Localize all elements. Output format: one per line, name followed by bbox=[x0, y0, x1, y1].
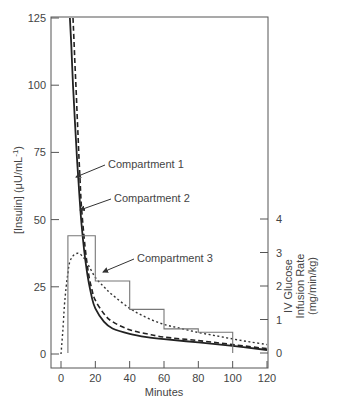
y-tick-label: 125 bbox=[28, 12, 46, 24]
y-axis-ticks: 0255075100125 bbox=[28, 12, 59, 360]
y-axis-label: [Insulin] (μU/mL-1) bbox=[11, 146, 24, 234]
x-tick-label: 80 bbox=[192, 372, 204, 384]
x-tick-label: 0 bbox=[58, 372, 64, 384]
annotation-label: Compartment 2 bbox=[114, 192, 190, 204]
y-tick-label: 100 bbox=[28, 79, 46, 91]
svg-text:Infusion Rate: Infusion Rate bbox=[294, 254, 306, 319]
annotation-label: Compartment 1 bbox=[108, 158, 184, 170]
x-axis-label: Minutes bbox=[145, 386, 184, 398]
y-tick-label: 50 bbox=[34, 214, 46, 226]
y-tick-label: 0 bbox=[40, 348, 46, 360]
y2-tick-label: 4 bbox=[276, 213, 282, 225]
series-compartment-2 bbox=[73, 18, 267, 349]
x-tick-label: 100 bbox=[223, 372, 241, 384]
annotation-arrow bbox=[103, 259, 134, 272]
y-tick-label: 25 bbox=[34, 281, 46, 293]
y2-axis-ticks: 01234 bbox=[260, 213, 282, 359]
y2-tick-label: 1 bbox=[276, 314, 282, 326]
series-compartment-1 bbox=[70, 18, 267, 350]
x-tick-label: 20 bbox=[89, 372, 101, 384]
y-tick-label: 75 bbox=[34, 146, 46, 158]
y2-tick-label: 3 bbox=[276, 247, 282, 259]
x-tick-label: 60 bbox=[158, 372, 170, 384]
insulin-compartment-chart: 020406080100120 0255075100125 01234 Comp… bbox=[0, 0, 338, 408]
y2-axis-label: IV Glucose Infusion Rate (mg/min/kg) bbox=[282, 254, 318, 319]
x-tick-label: 120 bbox=[258, 372, 276, 384]
series-layer bbox=[61, 18, 267, 354]
svg-text:(mg/min/kg): (mg/min/kg) bbox=[306, 257, 318, 315]
x-tick-label: 40 bbox=[124, 372, 136, 384]
y2-tick-label: 0 bbox=[276, 347, 282, 359]
annotation-label: Compartment 3 bbox=[137, 252, 213, 264]
svg-text:IV Glucose: IV Glucose bbox=[282, 259, 294, 313]
x-axis-ticks: 020406080100120 bbox=[58, 361, 276, 384]
annotation-layer: Compartment 1Compartment 2Compartment 3 bbox=[76, 158, 213, 272]
annotation-arrow bbox=[80, 199, 111, 210]
